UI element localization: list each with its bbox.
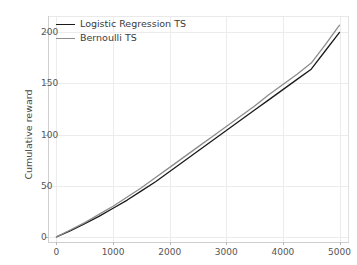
x-tick-label: 3000 [215, 247, 238, 257]
series-line [56, 25, 339, 237]
x-tick-label: 2000 [158, 247, 181, 257]
x-tick-mark [113, 242, 114, 245]
series-lines [48, 16, 348, 242]
y-axis-label: Cumulative reward [23, 55, 34, 215]
legend-line-icon [56, 24, 75, 25]
x-tick-label: 4000 [271, 247, 294, 257]
chart-legend: Logistic Regression TSBernoulli TS [56, 18, 186, 44]
x-tick-mark [340, 242, 341, 245]
legend-item[interactable]: Bernoulli TS [56, 32, 186, 44]
legend-label: Bernoulli TS [80, 32, 137, 44]
axis-spine-bottom [48, 242, 349, 243]
legend-label: Logistic Regression TS [80, 18, 186, 30]
x-tick-mark [283, 242, 284, 245]
axis-spine-right [348, 16, 349, 243]
x-tick-label: 1000 [102, 247, 125, 257]
x-tick-mark [226, 242, 227, 245]
legend-item[interactable]: Logistic Regression TS [56, 18, 186, 30]
x-tick-mark [56, 242, 57, 245]
series-line [56, 32, 339, 237]
x-tick-label: 0 [54, 247, 60, 257]
x-tick-mark [170, 242, 171, 245]
chart-figure: 010002000300040005000050100150200 Cumula… [0, 0, 357, 265]
x-tick-label: 5000 [328, 247, 351, 257]
legend-line-icon [56, 38, 75, 39]
